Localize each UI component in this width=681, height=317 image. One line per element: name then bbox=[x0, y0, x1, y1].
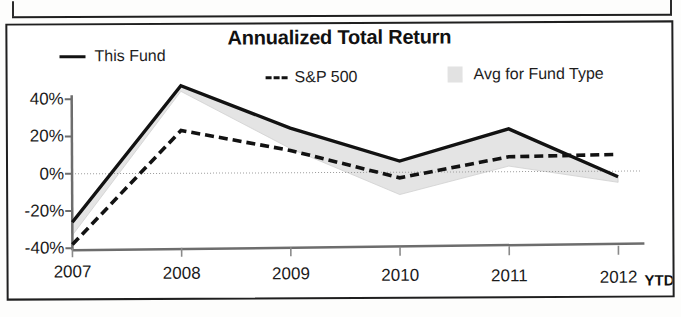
x-axis-line bbox=[72, 244, 644, 251]
x-axis-tick-label: 2010 bbox=[381, 265, 419, 285]
y-axis-tick-label: 20% bbox=[8, 127, 64, 147]
y-axis-line bbox=[72, 95, 73, 250]
x-axis-ytd-label: YTD bbox=[645, 271, 673, 288]
chart-panel-inner: Annualized Total Return This Fund S&P 50… bbox=[7, 22, 672, 298]
plot-area: 40%20%0%-20%-40% 20072008200920102011201… bbox=[7, 22, 672, 298]
y-axis-tick-label: -40% bbox=[8, 238, 64, 258]
x-axis-tick-label: 2008 bbox=[163, 263, 201, 283]
x-axis-tick-label: 2012 bbox=[600, 268, 638, 288]
x-axis-tick-label: 2009 bbox=[272, 264, 310, 284]
screenshot-page: Annualized Total Return This Fund S&P 50… bbox=[0, 0, 681, 317]
x-axis-tick-label: 2007 bbox=[54, 262, 92, 282]
chart-svg bbox=[7, 22, 672, 298]
y-axis-tick-label: 0% bbox=[8, 164, 64, 184]
upper-panel-border bbox=[12, 0, 672, 18]
chart-panel: Annualized Total Return This Fund S&P 50… bbox=[5, 20, 674, 300]
y-axis-tick-label: 40% bbox=[8, 89, 64, 109]
x-axis-tick-label: 2011 bbox=[491, 266, 528, 286]
y-axis-tick-label: -20% bbox=[8, 201, 64, 221]
